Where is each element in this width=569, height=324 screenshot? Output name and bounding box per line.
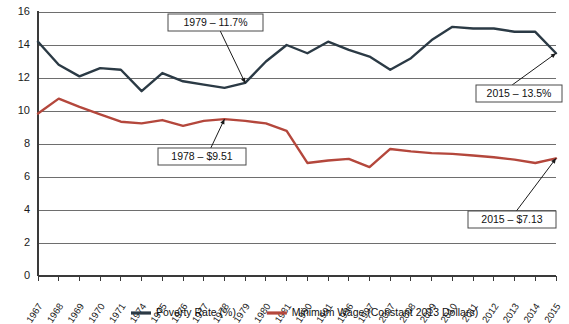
gridlines bbox=[38, 12, 556, 276]
annotations: 1979 – 11.7%2015 – 13.5%1978 – $9.512015… bbox=[158, 14, 562, 228]
x-axis-tick-label: 1970 bbox=[86, 301, 107, 324]
y-axis-tick-labels: 0246810121416 bbox=[18, 5, 30, 281]
y-axis-tick-label: 16 bbox=[18, 5, 30, 17]
legend-label: Minimum Wage (Constant 2013 Dollars) bbox=[292, 306, 478, 318]
series-line-poverty-rate bbox=[38, 27, 556, 91]
x-axis-tick-label: 1967 bbox=[24, 301, 45, 324]
x-axis-tick-label: 1968 bbox=[44, 301, 65, 324]
x-axis-tick-label: 1971 bbox=[107, 301, 128, 324]
y-axis-tick-label: 6 bbox=[24, 170, 30, 182]
y-axis-tick-label: 10 bbox=[18, 104, 30, 116]
y-axis-tick-label: 0 bbox=[24, 269, 30, 281]
x-axis-tick-label: 2013 bbox=[500, 301, 521, 324]
annotation-label: 1979 – 11.7% bbox=[183, 16, 247, 28]
x-axis-tick-label: 2014 bbox=[521, 301, 542, 324]
y-axis-tick-label: 8 bbox=[24, 137, 30, 149]
y-axis-tick-label: 14 bbox=[18, 38, 30, 50]
annotation-label: 2015 – 13.5% bbox=[487, 87, 552, 99]
x-axis-tick-label: 1969 bbox=[65, 301, 86, 324]
annotation-leader-line bbox=[516, 158, 556, 211]
y-axis-tick-label: 2 bbox=[24, 236, 30, 248]
annotation-arrowhead bbox=[551, 53, 556, 58]
annotation-label: 2015 – $7.13 bbox=[481, 213, 542, 225]
legend-label: Poverty Rate (%) bbox=[156, 306, 236, 318]
line-chart: 0246810121416 19671968196919701971197419… bbox=[0, 0, 569, 324]
x-axis-tick-label: 2015 bbox=[542, 301, 563, 324]
annotation-leader-line bbox=[220, 31, 245, 83]
x-axis-tick-label: 2012 bbox=[480, 301, 501, 324]
y-axis-tick-label: 12 bbox=[18, 71, 30, 83]
y-axis-tick-label: 4 bbox=[24, 203, 30, 215]
annotation-leader-line bbox=[512, 53, 556, 85]
annotation-label: 1978 – $9.51 bbox=[171, 150, 232, 162]
chart-container: 0246810121416 19671968196919701971197419… bbox=[0, 0, 569, 324]
series-line-minimum-wage bbox=[38, 99, 556, 167]
legend: Poverty Rate (%)Minimum Wage (Constant 2… bbox=[131, 306, 478, 318]
